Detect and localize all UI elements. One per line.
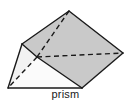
- figure-caption: prism: [0, 87, 131, 101]
- prism-figure: prism: [0, 0, 131, 103]
